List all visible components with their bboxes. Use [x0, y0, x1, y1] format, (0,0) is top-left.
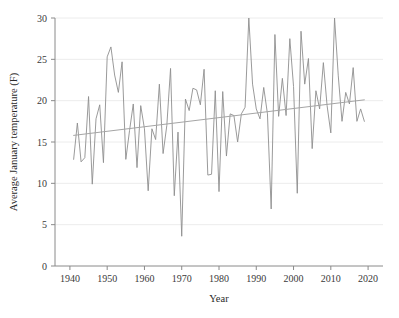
y-axis-group — [51, 18, 55, 266]
x-tick-label: 1940 — [60, 273, 80, 284]
x-tick-label: 1990 — [246, 273, 266, 284]
x-tick-label: 1970 — [172, 273, 192, 284]
x-tick-label: 2000 — [284, 273, 304, 284]
y-tick-label: 15 — [37, 137, 47, 148]
line-chart-plot: 194019501960197019801990200020102020 051… — [0, 0, 399, 318]
temperature-series-line — [74, 18, 365, 236]
x-axis-title: Year — [209, 293, 229, 304]
x-tick-label: 1960 — [134, 273, 154, 284]
x-tick-label: 1980 — [209, 273, 229, 284]
x-tick-labels-group: 194019501960197019801990200020102020 — [60, 273, 378, 284]
x-tick-label: 2010 — [321, 273, 341, 284]
y-tick-label: 10 — [37, 178, 47, 189]
y-tick-label: 5 — [42, 219, 47, 230]
y-tick-labels-group: 051015202530 — [37, 13, 47, 272]
x-tick-label: 2020 — [358, 273, 378, 284]
trend-line — [74, 100, 365, 136]
x-axis-group — [55, 266, 383, 270]
y-axis-title: Average January temperature (F) — [8, 72, 20, 211]
x-tick-label: 1950 — [97, 273, 117, 284]
y-tick-label: 20 — [37, 95, 47, 106]
y-tick-label: 25 — [37, 54, 47, 65]
y-tick-label: 30 — [37, 13, 47, 24]
chart-figure: 194019501960197019801990200020102020 051… — [0, 0, 399, 318]
y-tick-label: 0 — [42, 261, 47, 272]
